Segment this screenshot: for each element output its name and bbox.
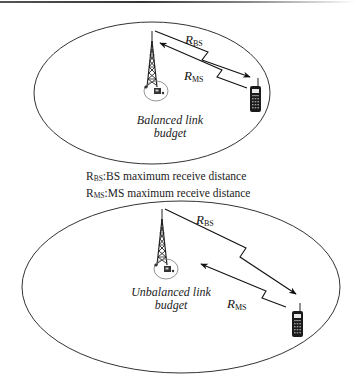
balanced-panel [34,22,270,164]
rbs-label-main: R [196,212,204,227]
unbalanced-caption: Unbalanced link budget [116,286,226,312]
legend-text: :MS maximum receive distance [105,187,251,199]
legend-item-rms: RMS:MS maximum receive distance [86,186,250,203]
mobile-phone-icon [292,303,303,337]
legend-symbol-sub: BS [94,174,103,183]
rbs-label: RBS [185,32,203,48]
rbs-label-sub: BS [204,219,214,228]
legend-symbol: R [86,187,94,199]
rms-label-main: R [184,68,192,83]
legend-item-rbs: RBS:BS maximum receive distance [86,169,250,186]
rbs-label-sub: BS [193,39,203,48]
rms-label-sub: MS [235,303,247,312]
legend-symbol: R [86,170,94,182]
rbs-downlink-arrow [165,209,296,294]
rbs-label-main: R [185,32,193,47]
unbalanced-caption-line2: budget [116,299,226,312]
legend-text: :BS maximum receive distance [103,170,246,182]
rms-label-main: R [227,296,235,311]
base-station-tower-icon [154,209,178,279]
legend-symbol-sub: MS [94,191,105,200]
balanced-caption-line2: budget [120,127,220,140]
rms-label-sub: MS [192,75,204,84]
base-station-tower-icon [144,31,168,101]
mobile-phone-icon [250,78,261,112]
legend: RBS:BS maximum receive distance RMS:MS m… [86,169,250,203]
rms-label: RMS [227,296,247,312]
rms-label: RMS [184,68,204,84]
rbs-label: RBS [196,212,214,228]
balanced-caption: Balanced link budget [120,114,220,140]
